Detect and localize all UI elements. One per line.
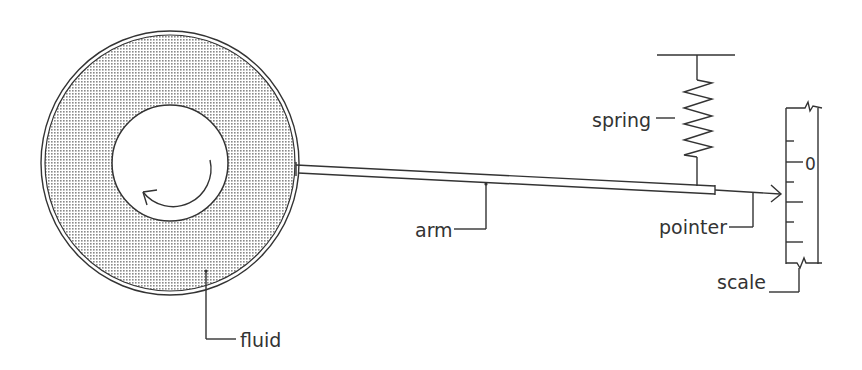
scale-label: scale [717, 271, 766, 293]
pointer [715, 185, 781, 202]
pointer-label: pointer [659, 216, 727, 238]
viscometer-diagram: 0 spring arm pointer scale fluid [0, 0, 862, 370]
fluid-label: fluid [240, 329, 281, 351]
arm-label: arm [415, 219, 453, 241]
scale: 0 [786, 102, 822, 268]
label-arm: arm [415, 182, 488, 241]
arm [296, 162, 715, 195]
spring-label: spring [592, 109, 651, 131]
label-pointer: pointer [659, 193, 753, 238]
label-scale: scale [717, 268, 799, 293]
scale-zero-mark: 0 [805, 154, 816, 174]
spring [657, 55, 735, 186]
label-spring: spring [592, 109, 675, 131]
rotating-cylinder [112, 105, 228, 221]
